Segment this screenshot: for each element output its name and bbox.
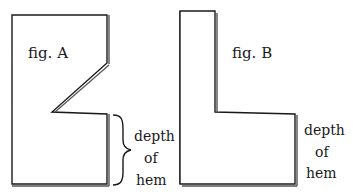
figure-b-annotation-line-2: of — [315, 144, 330, 160]
figure-a-annotation-line-1: depth — [134, 128, 175, 144]
figure-b-label: fig. B — [232, 44, 272, 62]
figure-a-label: fig. A — [28, 44, 68, 62]
figure-b-annotation-line-1: depth — [304, 122, 345, 138]
figure-b-annotation-line-3: hem — [306, 165, 337, 181]
figure-b-shape — [180, 11, 295, 184]
figure-a: fig. A depth of hem — [12, 15, 175, 188]
hem-depth-brace-icon — [113, 115, 131, 185]
figure-a-shape — [12, 15, 107, 184]
figure-a-annotation-line-2: of — [144, 150, 159, 166]
figure-b: fig. B depth of hem — [180, 11, 345, 186]
figure-a-annotation-line-3: hem — [136, 172, 167, 188]
hem-diagram: fig. A depth of hem fig. B depth of hem — [0, 0, 353, 192]
